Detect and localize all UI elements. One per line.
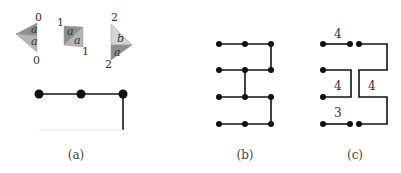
node	[268, 67, 274, 73]
segment-label-top: 4	[334, 27, 342, 41]
node	[216, 67, 222, 73]
node	[268, 94, 274, 100]
tile-0-top-label: 0	[35, 11, 42, 24]
tile-1-lower-face-label: a	[74, 34, 81, 47]
panel-c	[323, 44, 387, 124]
node	[242, 67, 248, 73]
node	[242, 41, 248, 47]
node	[242, 94, 248, 100]
node	[320, 121, 326, 127]
segment-label-bottom: 3	[334, 106, 342, 120]
tile-2-top-label: 2	[111, 11, 118, 24]
tile-0: a a 0 0	[16, 11, 42, 67]
node	[320, 94, 326, 100]
panel-a: a a 0 0 a a 1 1 b a 2 2	[16, 11, 132, 162]
node	[268, 121, 274, 127]
caption-b: (b)	[236, 148, 253, 162]
tile-2-upper-face-label: b	[117, 32, 124, 45]
node	[320, 67, 326, 73]
tile-1-top-label: 1	[57, 16, 64, 29]
segment-label-left-u: 4	[334, 79, 342, 93]
path-node	[119, 90, 128, 99]
node	[320, 41, 326, 47]
node	[356, 41, 362, 47]
path-node	[77, 90, 86, 99]
node	[347, 121, 353, 127]
caption-c: (c)	[347, 148, 363, 162]
segment-label-right: 4	[368, 79, 376, 93]
node	[356, 121, 362, 127]
node	[216, 94, 222, 100]
node	[242, 121, 248, 127]
tile-1: a a 1 1	[57, 16, 89, 58]
caption-a: (a)	[68, 148, 85, 162]
tile-1-bottom-label: 1	[82, 45, 89, 58]
node	[347, 41, 353, 47]
tile-1-upper-face-label: a	[67, 25, 74, 38]
panel-a-path	[35, 90, 128, 131]
tile-2-lower-face-label: a	[114, 46, 121, 59]
node	[216, 121, 222, 127]
path-node	[35, 90, 44, 99]
diagram-canvas: a a 0 0 a a 1 1 b a 2 2	[0, 0, 401, 173]
tile-0-lower-face-label: a	[31, 35, 38, 48]
tile-2: b a 2 2	[105, 11, 132, 71]
panel-b	[219, 44, 271, 124]
tile-2-bottom-label: 2	[105, 58, 112, 71]
node	[268, 41, 274, 47]
tile-0-bottom-label: 0	[33, 54, 40, 67]
node	[216, 41, 222, 47]
